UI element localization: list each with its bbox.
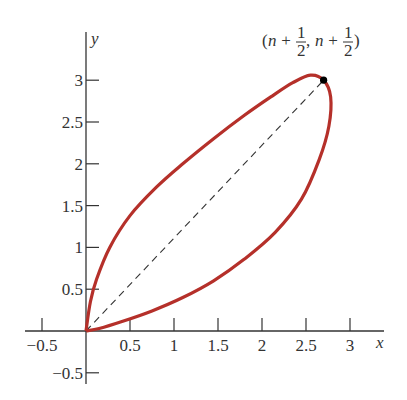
chart: −0.50.511.522.53 −0.50.511.522.53 x y ( … [0, 0, 407, 400]
annotation-plus2: + [324, 31, 342, 50]
annotation-num1: 1 [297, 23, 306, 42]
y-tick-label: 1 [75, 238, 84, 257]
y-tick-label: 2.5 [62, 113, 83, 132]
annotation-label: ( n + 1 2 , n + 1 2 ) [262, 23, 360, 60]
x-tick-label: 3 [346, 336, 355, 355]
annotation-close: ) [354, 31, 360, 50]
x-ticks: −0.50.511.522.53 [27, 318, 355, 355]
annotation-point [320, 77, 327, 84]
x-tick-label: 1 [170, 336, 179, 355]
x-tick-label: −0.5 [27, 336, 58, 355]
annotation-n1: n [268, 31, 277, 50]
y-axis-label: y [89, 29, 99, 48]
annotation-num2: 1 [344, 23, 353, 42]
y-ticks: −0.50.511.522.53 [52, 71, 99, 383]
annotation-den2: 2 [344, 41, 353, 60]
y-tick-label: 2 [75, 155, 84, 174]
annotation-den1: 2 [297, 41, 306, 60]
x-tick-label: 2 [258, 336, 267, 355]
x-axis-label: x [375, 333, 384, 352]
y-tick-label: 3 [75, 71, 84, 90]
y-tick-label: −0.5 [52, 364, 83, 383]
x-tick-label: 0.5 [119, 336, 140, 355]
y-tick-label: 0.5 [62, 280, 83, 299]
annotation-n2: n [315, 31, 324, 50]
x-tick-label: 2.5 [295, 336, 316, 355]
y-tick-label: 1.5 [62, 197, 83, 216]
x-tick-label: 1.5 [207, 336, 228, 355]
diagonal-dashed-line [86, 80, 324, 331]
annotation-comma: , [306, 31, 310, 50]
annotation-plus1: + [277, 31, 295, 50]
